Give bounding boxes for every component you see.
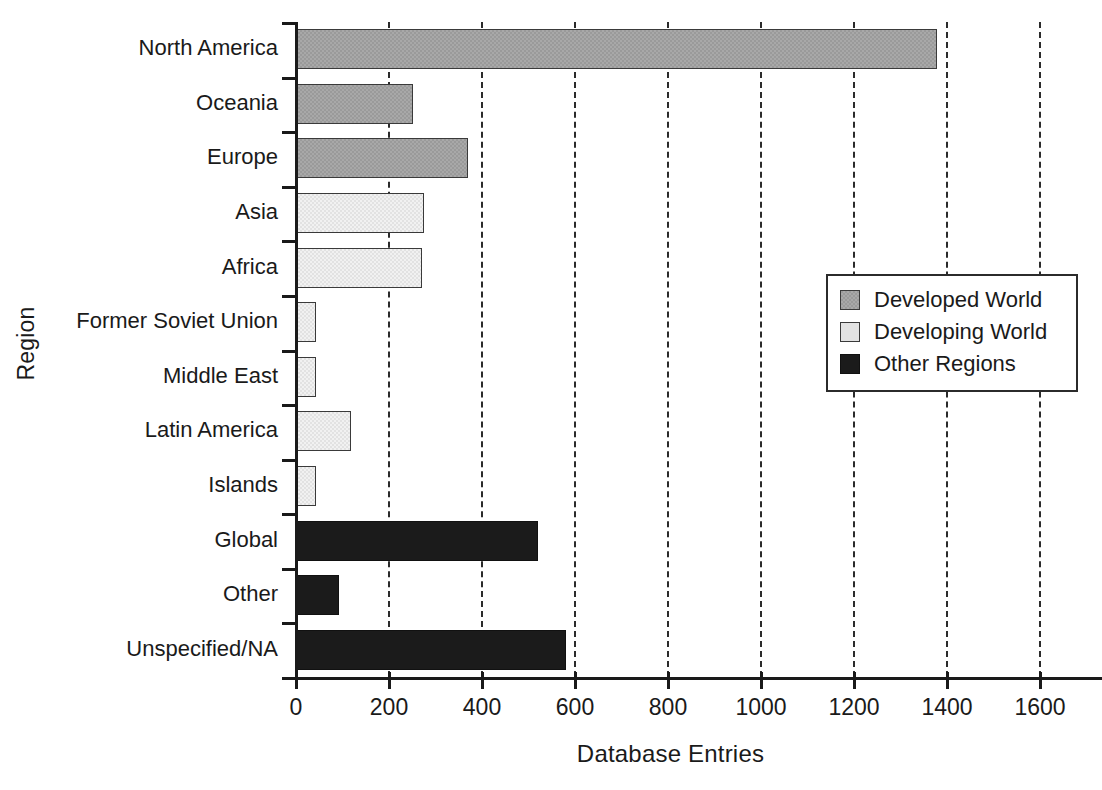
- x-axis-tick-label: 800: [649, 694, 687, 721]
- y-axis-tick: [282, 350, 298, 353]
- y-axis-tick: [282, 459, 298, 462]
- x-axis-tick: [295, 672, 298, 689]
- legend-label: Developed World: [874, 287, 1042, 313]
- x-axis-tick: [853, 672, 856, 689]
- x-axis-tick: [481, 672, 484, 689]
- bar-row: [295, 630, 1046, 670]
- y-axis-tick: [282, 77, 298, 80]
- bar-chart: Region North AmericaOceaniaEuropeAsiaAfr…: [0, 0, 1102, 790]
- bar-row: [295, 138, 1046, 178]
- bar[interactable]: [295, 630, 566, 670]
- bar-row: [295, 29, 1046, 69]
- bar[interactable]: [295, 29, 937, 69]
- x-axis-tick-label: 200: [370, 694, 408, 721]
- bar[interactable]: [295, 302, 316, 342]
- y-axis-label: Asia: [0, 199, 278, 225]
- x-axis-line: [282, 677, 1102, 680]
- x-axis-title: Database Entries: [295, 740, 1046, 768]
- legend-swatch-developed-world-icon: [840, 290, 860, 310]
- bar[interactable]: [295, 357, 316, 397]
- bar[interactable]: [295, 193, 424, 233]
- y-axis-tick: [282, 22, 298, 25]
- legend-item[interactable]: Other Regions: [840, 348, 1066, 380]
- y-axis-label: Islands: [0, 472, 278, 498]
- chart-legend: Developed World Developing World Other R…: [826, 274, 1078, 392]
- y-axis-tick: [282, 240, 298, 243]
- x-axis-tick-label: 400: [463, 694, 501, 721]
- x-axis-tick: [946, 672, 949, 689]
- bar[interactable]: [295, 84, 413, 124]
- y-axis-label: Former Soviet Union: [0, 308, 278, 334]
- y-axis-tick: [282, 295, 298, 298]
- bar-row: [295, 466, 1046, 506]
- y-axis-tick: [282, 622, 298, 625]
- x-axis-tick: [574, 672, 577, 689]
- legend-swatch-developing-world-icon: [840, 322, 860, 342]
- x-axis-tick: [760, 672, 763, 689]
- x-axis-tick-label: 1000: [735, 694, 786, 721]
- legend-label: Developing World: [874, 319, 1047, 345]
- y-axis-label: Latin America: [0, 417, 278, 443]
- legend-item[interactable]: Developed World: [840, 284, 1066, 316]
- x-axis-tick: [388, 672, 391, 689]
- bar-row: [295, 411, 1046, 451]
- legend-swatch-other-regions-icon: [840, 354, 860, 374]
- bar[interactable]: [295, 138, 468, 178]
- y-axis-tick: [282, 568, 298, 571]
- bar-row: [295, 84, 1046, 124]
- bar-row: [295, 193, 1046, 233]
- y-axis-tick: [282, 186, 298, 189]
- y-axis-tick: [282, 513, 298, 516]
- x-axis-tick: [667, 672, 670, 689]
- x-axis-tick-label: 0: [290, 694, 303, 721]
- x-axis-tick-label: 600: [556, 694, 594, 721]
- bar[interactable]: [295, 466, 316, 506]
- x-axis-tick-label: 1600: [1014, 694, 1065, 721]
- y-axis-label: Other: [0, 581, 278, 607]
- y-axis-label: Africa: [0, 254, 278, 280]
- bar[interactable]: [295, 411, 351, 451]
- y-axis-label: Unspecified/NA: [0, 636, 278, 662]
- legend-label: Other Regions: [874, 351, 1016, 377]
- y-axis-tick: [282, 131, 298, 134]
- y-axis-label: Oceania: [0, 90, 278, 116]
- x-axis-tick-label: 1200: [828, 694, 879, 721]
- y-axis-tick: [282, 404, 298, 407]
- y-axis-label: Global: [0, 527, 278, 553]
- bar[interactable]: [295, 521, 538, 561]
- x-axis-tick: [1039, 672, 1042, 689]
- x-axis-tick-label: 1400: [921, 694, 972, 721]
- y-axis-label: North America: [0, 35, 278, 61]
- bar-row: [295, 521, 1046, 561]
- bar[interactable]: [295, 248, 422, 288]
- legend-item[interactable]: Developing World: [840, 316, 1066, 348]
- y-axis-label: Middle East: [0, 363, 278, 389]
- bar-row: [295, 575, 1046, 615]
- y-axis-label: Europe: [0, 144, 278, 170]
- bar[interactable]: [295, 575, 339, 615]
